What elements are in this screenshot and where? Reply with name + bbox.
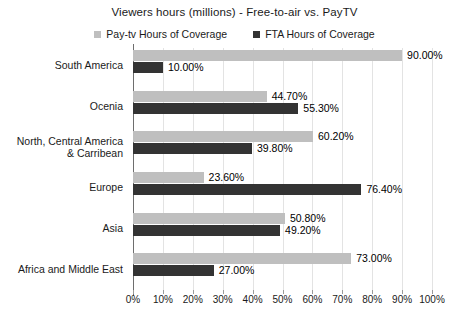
x-axis-tick-mark: [312, 290, 313, 294]
bar-fta[interactable]: [133, 225, 280, 236]
chart-title: Viewers hours (millions) - Free-to-air v…: [0, 6, 469, 18]
bar-row-fta: 49.20%: [133, 225, 321, 236]
x-axis-tick-mark: [283, 290, 284, 294]
bar-row-pay-tv: 44.70%: [133, 91, 307, 102]
bar-pay-tv[interactable]: [133, 131, 313, 142]
bar-fta[interactable]: [133, 143, 252, 154]
chart-container: Viewers hours (millions) - Free-to-air v…: [0, 0, 469, 327]
bar-group: 90.00%10.00%: [133, 48, 432, 89]
category-axis-labels: South AmericaOceniaNorth, Central Americ…: [0, 48, 128, 292]
category-label: Asia: [0, 222, 123, 234]
x-axis-tick-label: 0%: [126, 294, 140, 305]
x-axis-tick-mark: [342, 290, 343, 294]
x-axis-tick-mark: [432, 290, 433, 294]
bar-group: 60.20%39.80%: [133, 129, 432, 170]
x-axis-tick-label: 90%: [392, 294, 412, 305]
bar-pay-tv[interactable]: [133, 91, 267, 102]
x-axis-tick-mark: [163, 290, 164, 294]
bar-row-fta: 10.00%: [133, 62, 204, 73]
bar-row-fta: 76.40%: [133, 184, 402, 195]
x-axis-tick-mark: [223, 290, 224, 294]
bar-value-label: 73.00%: [356, 253, 392, 264]
bar-row-pay-tv: 23.60%: [133, 172, 244, 183]
x-axis-tick-label: 100%: [419, 294, 445, 305]
bar-row-fta: 55.30%: [133, 103, 339, 114]
bar-pay-tv[interactable]: [133, 213, 285, 224]
category-label: Africa and Middle East: [0, 263, 123, 275]
bar-group: 73.00%27.00%: [133, 251, 432, 292]
category-label-line: Africa and Middle East: [0, 263, 123, 275]
x-axis-tick-label: 60%: [302, 294, 322, 305]
legend-swatch-fta: [253, 31, 260, 38]
category-label-line: North, Central America: [0, 135, 123, 147]
legend-label-fta: FTA Hours of Coverage: [265, 28, 375, 40]
bar-row-fta: 27.00%: [133, 265, 254, 276]
bar-groups: 90.00%10.00%44.70%55.30%60.20%39.80%23.6…: [133, 48, 432, 292]
bar-group: 44.70%55.30%: [133, 89, 432, 130]
category-label: North, Central America& Carribean: [0, 135, 123, 159]
x-axis-tick-label: 20%: [183, 294, 203, 305]
x-axis-tick-mark: [372, 290, 373, 294]
bar-row-pay-tv: 50.80%: [133, 213, 326, 224]
bar-value-label: 60.20%: [318, 131, 354, 142]
x-axis-tick-mark: [253, 290, 254, 294]
bar-value-label: 44.70%: [272, 91, 308, 102]
bar-value-label: 23.60%: [209, 172, 245, 183]
category-label-line: Ocenia: [0, 100, 123, 112]
x-axis-tick-mark: [133, 290, 134, 294]
bar-value-label: 49.20%: [285, 225, 321, 236]
gridline: [432, 48, 433, 292]
bar-value-label: 55.30%: [303, 103, 339, 114]
bar-row-fta: 39.80%: [133, 143, 293, 154]
bar-pay-tv[interactable]: [133, 253, 351, 264]
bar-row-pay-tv: 90.00%: [133, 50, 443, 61]
bar-value-label: 50.80%: [290, 213, 326, 224]
x-axis-ticks: 0%10%20%30%40%50%60%70%80%90%100%: [133, 294, 432, 310]
bar-pay-tv[interactable]: [133, 172, 204, 183]
bar-pay-tv[interactable]: [133, 50, 402, 61]
x-axis-tick-mark: [402, 290, 403, 294]
plot-area: 90.00%10.00%44.70%55.30%60.20%39.80%23.6…: [133, 48, 432, 292]
legend-item-pay-tv[interactable]: Pay-tv Hours of Coverage: [94, 28, 227, 40]
x-axis-tick-label: 50%: [272, 294, 292, 305]
category-label: Ocenia: [0, 100, 123, 112]
bar-row-pay-tv: 60.20%: [133, 131, 354, 142]
chart-legend: Pay-tv Hours of Coverage FTA Hours of Co…: [0, 28, 469, 40]
bar-fta[interactable]: [133, 103, 298, 114]
category-label-line: & Carribean: [0, 147, 123, 159]
legend-swatch-pay-tv: [94, 31, 101, 38]
x-axis-tick-label: 10%: [153, 294, 173, 305]
bar-value-label: 10.00%: [168, 62, 204, 73]
bar-group: 50.80%49.20%: [133, 211, 432, 252]
x-axis-tick-mark: [193, 290, 194, 294]
x-axis-tick-label: 30%: [213, 294, 233, 305]
bar-fta[interactable]: [133, 184, 361, 195]
bar-value-label: 90.00%: [407, 50, 443, 61]
bar-fta[interactable]: [133, 62, 163, 73]
category-label: Europe: [0, 181, 123, 193]
bar-group: 23.60%76.40%: [133, 170, 432, 211]
category-label-line: South America: [0, 59, 123, 71]
bar-value-label: 39.80%: [257, 143, 293, 154]
category-label-line: Asia: [0, 222, 123, 234]
bar-row-pay-tv: 73.00%: [133, 253, 392, 264]
legend-item-fta[interactable]: FTA Hours of Coverage: [253, 28, 375, 40]
category-label-line: Europe: [0, 181, 123, 193]
bar-fta[interactable]: [133, 265, 214, 276]
bar-value-label: 76.40%: [366, 184, 402, 195]
legend-label-pay-tv: Pay-tv Hours of Coverage: [106, 28, 227, 40]
x-axis-tick-label: 40%: [243, 294, 263, 305]
category-label: South America: [0, 59, 123, 71]
x-axis-tick-label: 80%: [362, 294, 382, 305]
bar-value-label: 27.00%: [219, 265, 255, 276]
x-axis-tick-label: 70%: [332, 294, 352, 305]
